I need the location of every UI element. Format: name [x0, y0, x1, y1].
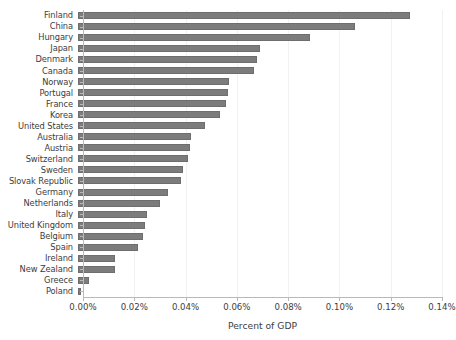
y-axis-tick: [80, 192, 83, 193]
category-label: Canada: [0, 67, 78, 75]
bar-row: Canada: [0, 65, 443, 76]
bar-row: Japan: [0, 43, 443, 54]
bar: [78, 200, 160, 207]
bar: [78, 23, 355, 30]
x-axis-tick: [288, 297, 289, 301]
category-label: Switzerland: [0, 155, 78, 163]
y-axis-tick: [80, 247, 83, 248]
y-axis-tick: [80, 258, 83, 259]
bar-row: Norway: [0, 76, 443, 87]
bar-track: [78, 153, 443, 164]
bar-row: Netherlands: [0, 198, 443, 209]
x-axis-tick-label: 0.00%: [69, 303, 96, 312]
category-label: United Kingdom: [0, 221, 78, 229]
y-axis-tick: [80, 236, 83, 237]
x-axis-line: [83, 297, 442, 298]
bar-track: [78, 120, 443, 131]
y-axis-tick: [80, 104, 83, 105]
bar: [78, 34, 310, 41]
y-axis-tick: [80, 49, 83, 50]
y-axis-tick: [80, 269, 83, 270]
x-axis-tick: [186, 297, 187, 301]
x-axis-tick: [134, 297, 135, 301]
category-label: Germany: [0, 188, 78, 196]
category-label: Austria: [0, 144, 78, 152]
category-label: Netherlands: [0, 199, 78, 207]
bar-row: Finland: [0, 10, 443, 21]
x-axis-tick-label: 0.02%: [121, 303, 148, 312]
bar-row: Poland: [0, 286, 443, 297]
bar-track: [78, 131, 443, 142]
x-axis-title: Percent of GDP: [83, 320, 442, 331]
category-label: Hungary: [0, 33, 78, 41]
category-label: Portugal: [0, 89, 78, 97]
bar: [78, 133, 191, 140]
bar-row: United States: [0, 120, 443, 131]
y-axis-tick: [80, 148, 83, 149]
x-axis-tick-labels: 0.00%0.02%0.04%0.06%0.08%0.10%0.12%0.14%: [0, 303, 455, 317]
category-label: France: [0, 100, 78, 108]
bar-row: Spain: [0, 242, 443, 253]
bar: [78, 122, 205, 129]
y-axis-tick: [80, 225, 83, 226]
y-axis-tick: [80, 203, 83, 204]
bar-track: [78, 32, 443, 43]
x-axis-tick-label: 0.06%: [223, 303, 250, 312]
y-axis-tick: [80, 170, 83, 171]
bar-track: [78, 10, 443, 21]
y-axis-tick: [80, 115, 83, 116]
bar: [78, 177, 181, 184]
y-axis-tick: [80, 126, 83, 127]
bar: [78, 166, 183, 173]
x-axis-tick-label: 0.08%: [274, 303, 301, 312]
bar-row: Greece: [0, 275, 443, 286]
y-axis-tick: [80, 82, 83, 83]
x-axis-tick-label: 0.10%: [326, 303, 353, 312]
bar-track: [78, 242, 443, 253]
x-axis-tick: [442, 297, 443, 301]
category-label: Greece: [0, 276, 78, 284]
category-label: Norway: [0, 78, 78, 86]
y-axis-tick: [80, 214, 83, 215]
bar: [78, 144, 190, 151]
bar-track: [78, 76, 443, 87]
x-axis-tick: [237, 297, 238, 301]
category-label: Ireland: [0, 254, 78, 262]
category-label: Korea: [0, 111, 78, 119]
category-label: Italy: [0, 210, 78, 218]
x-axis-tick: [83, 297, 84, 301]
bar: [78, 100, 226, 107]
bar-row: Denmark: [0, 54, 443, 65]
bar-track: [78, 220, 443, 231]
bar-row: Ireland: [0, 253, 443, 264]
bar-track: [78, 65, 443, 76]
bar-rows: FinlandChinaHungaryJapanDenmarkCanadaNor…: [0, 10, 443, 297]
y-axis-tick: [80, 27, 83, 28]
y-axis-tick: [80, 71, 83, 72]
bar-row: Korea: [0, 109, 443, 120]
bar-row: France: [0, 98, 443, 109]
y-axis-tick: [80, 60, 83, 61]
bar: [78, 89, 228, 96]
bar-row: Austria: [0, 142, 443, 153]
bar-track: [78, 142, 443, 153]
bar-row: Sweden: [0, 164, 443, 175]
bar-track: [78, 209, 443, 220]
bar: [78, 222, 145, 229]
x-axis-tick-label: 0.12%: [377, 303, 404, 312]
x-axis-tick-label: 0.14%: [428, 303, 455, 312]
bar-row: Belgium: [0, 231, 443, 242]
category-label: Japan: [0, 44, 78, 52]
bar-track: [78, 21, 443, 32]
y-axis-tick: [80, 137, 83, 138]
bar: [78, 189, 168, 196]
y-axis-tick: [80, 159, 83, 160]
bar: [78, 12, 410, 19]
bar-track: [78, 43, 443, 54]
bar-row: New Zealand: [0, 264, 443, 275]
bar-track: [78, 187, 443, 198]
bar-row: China: [0, 21, 443, 32]
category-label: Spain: [0, 243, 78, 251]
bar-row: United Kingdom: [0, 220, 443, 231]
